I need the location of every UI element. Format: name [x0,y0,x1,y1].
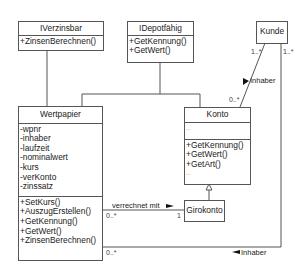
attribute: ... [186,124,249,134]
class-iverzinsbar: IVerzinsbar +ZinsenBerechnen() [18,21,104,51]
multiplicity-kunde-konto-kunde: 1..* [251,48,262,55]
attribute: -zinssatz [20,182,101,192]
method: +ZinsenBerechnen() [20,236,101,246]
inhaber-direction-arrow-icon [243,78,249,85]
class-name: Kunde [257,22,287,37]
class-name: Konto [185,108,250,123]
class-name: Girokonto [185,201,224,216]
class-konto: Konto ... +GetKennung() +GetWert() +GetA… [184,107,251,185]
multiplicity-wertpapier-girokonto-wertpapier: 0..* [106,212,117,219]
method: +ZinsenBerechnen() [20,37,102,47]
method: +GetWert() [129,46,192,56]
association-label-inhaber: Inhaber [250,76,275,85]
multiplicity-kunde-wertpapier-wertpapier: 0..* [106,249,117,256]
class-name: IVerzinsbar [19,22,103,36]
verrechnet-direction-arrow-icon [166,204,174,208]
class-idepotfaehig: IDepotfähig +GetKennung() +GetWert() [127,21,194,63]
multiplicity-kunde-konto-konto: 0..* [229,96,240,103]
multiplicity-wertpapier-girokonto-girokonto: 1 [177,212,181,219]
class-name: Wertpapier [19,107,102,124]
method: +GetArt() [186,160,249,170]
class-kunde: Kunde [256,21,288,44]
inhaber2-direction-arrow-icon [232,250,240,254]
multiplicity-kunde-wertpapier-kunde: 1..* [283,48,294,55]
class-wertpapier: Wertpapier -wpnr -inhaber -laufzeit -nom… [18,106,103,261]
method: ... [186,169,249,179]
association-label-inhaber-2: Inhaber [241,248,266,257]
association-label-verrechnet-mit: verrechnet mit [112,201,160,210]
class-name: IDepotfähig [128,22,193,36]
class-girokonto: Girokonto [184,200,225,222]
